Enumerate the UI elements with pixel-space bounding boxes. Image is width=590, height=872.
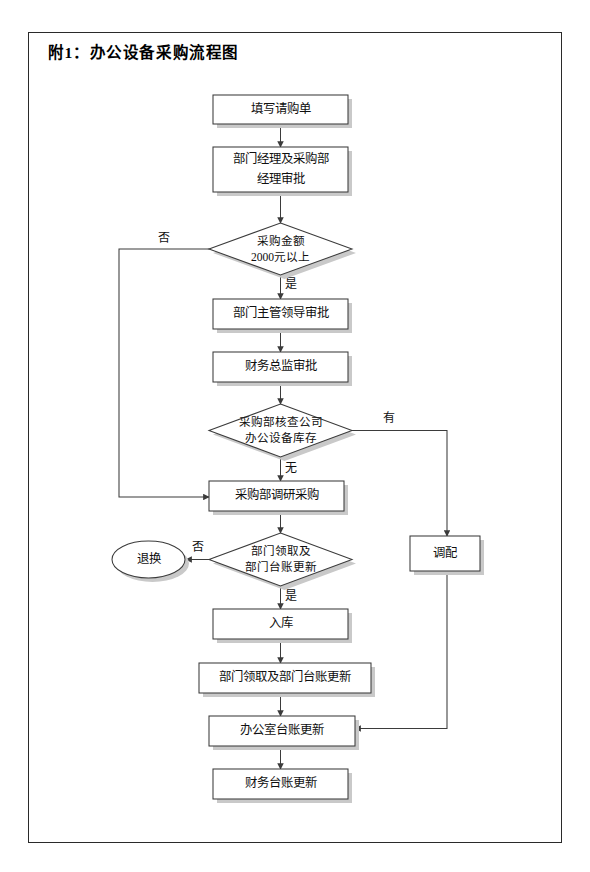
node-dept-receive-and-ledger-update[interactable]: 部门领取及部门台账更新 (199, 663, 375, 697)
decision-label-d3-line2: 部门台账更新 (245, 560, 317, 574)
edge-label-d2-no: 无 (285, 461, 297, 475)
node-procurement-research[interactable]: 采购部调研采购 (209, 481, 348, 515)
decision-label-d3-line1: 部门领取及 (251, 544, 311, 558)
edge-d1-n5-no (119, 249, 213, 497)
flowchart-diagram: 否 是 有 无 否 是 填写请购单 部门经理及采购部 经理审批 采购金额 200… (0, 0, 590, 872)
edge-label-d1-no: 否 (158, 231, 170, 245)
edge-label-d3-no: 否 (192, 540, 204, 554)
node-office-ledger-update[interactable]: 办公室台账更新 (209, 716, 359, 750)
node-label-n2-line2: 经理审批 (257, 171, 305, 186)
node-label-n9: 部门领取及部门台账更新 (219, 669, 351, 684)
edge-label-d1-yes: 是 (285, 277, 297, 291)
edge-d2-n7-yes (352, 431, 447, 537)
decision-amount-over-2000[interactable]: 采购金额 2000元以上 (209, 223, 356, 279)
node-manager-approval[interactable]: 部门经理及采购部 经理审批 (213, 147, 352, 196)
edge-n7-n10 (355, 575, 447, 729)
node-label-n5: 采购部调研采购 (235, 487, 319, 502)
node-return-exchange[interactable]: 退换 (112, 541, 189, 582)
decision-label-d1-line1: 采购金额 (257, 234, 305, 248)
decision-check-inventory[interactable]: 采购部核查公司 办公设备库存 (209, 404, 356, 461)
node-label-n7: 调配 (433, 546, 457, 560)
node-label-n6: 退换 (137, 552, 161, 566)
decision-label-d2-line2: 办公设备库存 (245, 431, 317, 445)
node-label-n11: 财务台账更新 (245, 775, 317, 790)
node-dept-leader-approval[interactable]: 部门主管领导审批 (213, 299, 352, 333)
decision-dept-receive-ledger[interactable]: 部门领取及 部门台账更新 (209, 533, 356, 590)
decision-label-d2-line1: 采购部核查公司 (239, 415, 323, 429)
node-finance-ledger-update[interactable]: 财务台账更新 (213, 769, 352, 803)
page-canvas: 附1：办公设备采购流程图 (0, 0, 590, 872)
edge-label-d3-yes: 是 (285, 589, 297, 603)
node-warehouse-in[interactable]: 入库 (213, 609, 352, 643)
node-label-n4: 财务总监审批 (245, 358, 317, 373)
node-label-n3: 部门主管领导审批 (233, 305, 329, 320)
node-label-n1: 填写请购单 (251, 101, 311, 116)
node-label-n10: 办公室台账更新 (240, 722, 324, 737)
decision-label-d1-line2: 2000元以上 (251, 251, 310, 264)
node-fill-requisition[interactable]: 填写请购单 (213, 95, 352, 128)
node-label-n8: 入库 (269, 615, 293, 630)
node-label-n2-line1: 部门经理及采购部 (233, 151, 329, 166)
edge-label-d2-yes: 有 (383, 411, 395, 425)
node-finance-director-approval[interactable]: 财务总监审批 (213, 352, 352, 386)
node-allocate[interactable]: 调配 (410, 536, 484, 575)
